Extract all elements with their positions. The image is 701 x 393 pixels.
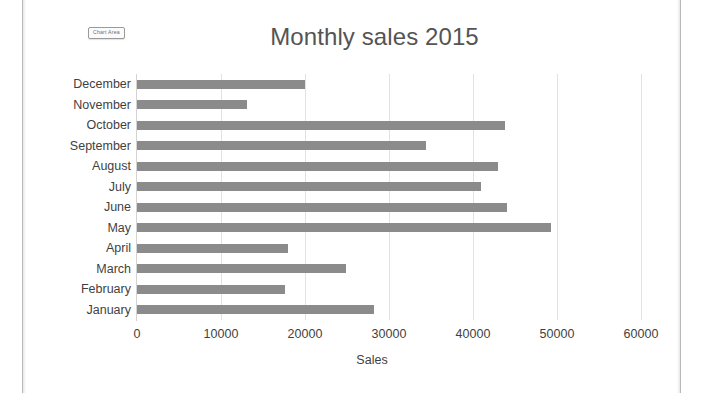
chart-title: Monthly sales 2015 — [0, 22, 701, 52]
bar-row — [137, 156, 683, 177]
bar-row — [137, 197, 683, 218]
category-label-august: August — [19, 159, 131, 173]
category-axis-labels: DecemberNovemberOctoberSeptemberAugustJu… — [12, 74, 131, 320]
bar-november[interactable] — [137, 100, 247, 109]
category-label-april: April — [19, 241, 131, 255]
bar-june[interactable] — [137, 203, 507, 212]
bar-april[interactable] — [137, 244, 288, 253]
tick-label-0: 0 — [134, 326, 141, 342]
tick-label-30000: 30000 — [372, 326, 407, 342]
tick-label-60000: 60000 — [624, 326, 659, 342]
bar-august[interactable] — [137, 162, 498, 171]
category-label-january: January — [19, 303, 131, 317]
value-axis-title: Sales — [137, 352, 607, 368]
category-label-june: June — [19, 200, 131, 214]
bar-row — [137, 177, 683, 198]
bar-row — [137, 74, 683, 95]
bar-row — [137, 115, 683, 136]
bar-row — [137, 136, 683, 157]
chart-page: Chart Area Monthly sales 2015 DecemberNo… — [0, 0, 701, 393]
bar-may[interactable] — [137, 223, 551, 232]
bar-row — [137, 95, 683, 116]
tick-label-10000: 10000 — [204, 326, 239, 342]
category-label-march: March — [19, 262, 131, 276]
bar-july[interactable] — [137, 182, 481, 191]
bar-row — [137, 238, 683, 259]
tick-label-40000: 40000 — [456, 326, 491, 342]
bar-row — [137, 259, 683, 280]
plot-area — [137, 74, 683, 320]
bar-october[interactable] — [137, 121, 505, 130]
bar-february[interactable] — [137, 285, 285, 294]
category-label-november: November — [19, 98, 131, 112]
category-label-july: July — [19, 180, 131, 194]
category-label-september: September — [19, 139, 131, 153]
bar-september[interactable] — [137, 141, 426, 150]
category-label-may: May — [19, 221, 131, 235]
bar-row — [137, 279, 683, 300]
value-axis-tick-labels: 0100002000030000400005000060000 — [137, 326, 683, 346]
bar-march[interactable] — [137, 264, 346, 273]
category-label-december: December — [19, 77, 131, 91]
bar-december[interactable] — [137, 80, 305, 89]
bar-january[interactable] — [137, 305, 374, 314]
tick-label-50000: 50000 — [540, 326, 575, 342]
category-label-october: October — [19, 118, 131, 132]
bar-row — [137, 300, 683, 321]
bar-row — [137, 218, 683, 239]
category-label-february: February — [19, 282, 131, 296]
tick-label-20000: 20000 — [288, 326, 323, 342]
